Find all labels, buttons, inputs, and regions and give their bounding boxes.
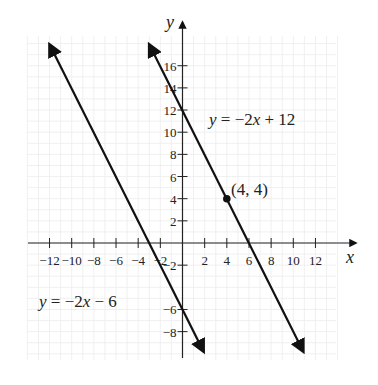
y-tick-label: 10 (164, 125, 177, 140)
x-tick-label: 4 (224, 253, 231, 268)
y-tick-label: 2 (170, 214, 177, 229)
x-tick-label: 8 (268, 253, 275, 268)
x-tick-label: 10 (287, 253, 300, 268)
x-tick-label: −10 (62, 253, 82, 268)
line-chart: −12−10−8−6−4−224681012−8−6−2246810121416… (0, 0, 378, 385)
equation-label-line1: y = −2x − 6 (37, 292, 117, 311)
y-tick-label: 6 (170, 170, 177, 185)
x-tick-label: −4 (131, 253, 145, 268)
data-points (223, 195, 231, 203)
y-tick-label: −6 (163, 302, 177, 317)
x-tick-label: 6 (246, 253, 253, 268)
point-label: (4, 4) (231, 180, 268, 199)
y-tick-label: −2 (163, 258, 177, 273)
y-tick-label: 12 (164, 103, 177, 118)
x-tick-label: −6 (109, 253, 123, 268)
x-tick-label: −12 (39, 253, 59, 268)
y-tick-label: 16 (164, 59, 178, 74)
point-marker (223, 195, 231, 203)
x-axis-label: x (345, 247, 354, 267)
y-axis-label: y (164, 12, 174, 32)
y-tick-label: 8 (170, 147, 177, 162)
y-tick-label: −8 (163, 325, 177, 340)
x-tick-label: −8 (87, 253, 101, 268)
x-tick-label: 2 (201, 253, 208, 268)
x-tick-label: 12 (309, 253, 322, 268)
equation-label-line2: y = −2x + 12 (207, 110, 295, 129)
y-tick-label: 4 (170, 192, 177, 207)
